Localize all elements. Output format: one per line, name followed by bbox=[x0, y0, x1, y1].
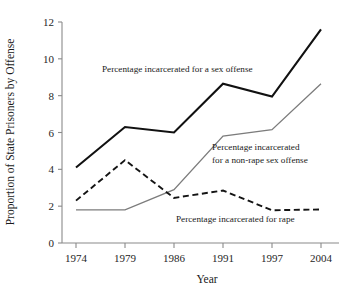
y-axis-ticks: 024681012 bbox=[43, 16, 62, 249]
chart-figure: 024681012 197419791986199119972004 Perce… bbox=[0, 0, 347, 290]
annotation-non-rape-sex-offense: Percentage incarceratedfor a non-rape se… bbox=[212, 142, 308, 165]
chart-annotations: Percentage incarcerated for a sex offens… bbox=[102, 64, 308, 224]
y-tick-label: 4 bbox=[49, 163, 55, 175]
chart-series-group bbox=[76, 29, 321, 210]
annotation-line: for a non-rape sex offense bbox=[212, 155, 308, 165]
y-tick-label: 10 bbox=[43, 53, 55, 65]
y-tick-label: 2 bbox=[49, 200, 55, 212]
y-tick-label: 0 bbox=[49, 237, 55, 249]
x-tick-label: 2004 bbox=[310, 252, 333, 264]
annotation-line: Percentage incarcerated for rape bbox=[176, 214, 295, 224]
y-axis-title: Proportion of State Prisoners by Offense bbox=[4, 39, 17, 226]
x-tick-label: 1986 bbox=[163, 252, 186, 264]
x-axis-ticks: 197419791986199119972004 bbox=[65, 243, 333, 264]
x-tick-label: 1991 bbox=[212, 252, 234, 264]
annotation-line: Percentage incarcerated for a sex offens… bbox=[102, 64, 253, 74]
x-axis-title: Year bbox=[196, 273, 217, 285]
annotation-sex-offense: Percentage incarcerated for a sex offens… bbox=[102, 64, 253, 74]
x-tick-label: 1997 bbox=[261, 252, 284, 264]
annotation-line: Percentage incarcerated bbox=[212, 142, 300, 152]
annotation-rape: Percentage incarcerated for rape bbox=[176, 214, 295, 224]
chart-canvas: 024681012 197419791986199119972004 Perce… bbox=[0, 0, 347, 290]
y-tick-label: 12 bbox=[43, 16, 54, 28]
y-tick-label: 6 bbox=[49, 127, 55, 139]
x-tick-label: 1979 bbox=[114, 252, 137, 264]
y-tick-label: 8 bbox=[49, 90, 55, 102]
x-tick-label: 1974 bbox=[65, 252, 88, 264]
series-line-2 bbox=[76, 160, 321, 210]
